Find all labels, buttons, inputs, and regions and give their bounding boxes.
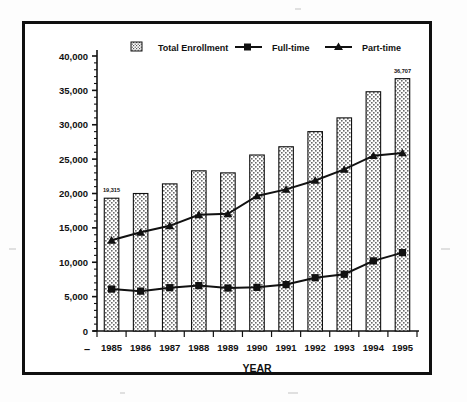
bar-1991 [279, 147, 294, 331]
y-tick-label-20000: 20,000 [59, 188, 88, 199]
y-tick-label-15000: 15,000 [59, 222, 88, 233]
marker-square-1992 [312, 274, 319, 281]
y-tick-label-35000: 35,000 [59, 85, 88, 96]
marker-square-1988 [195, 282, 202, 289]
x-tick-label-1988: 1988 [188, 342, 209, 353]
chart-legend: Total EnrollmentFull-timePart-time [131, 42, 401, 53]
x-tick-label-1992: 1992 [305, 342, 326, 353]
y-tick-label-30000: 30,000 [59, 119, 88, 130]
x-tick-label-1990: 1990 [246, 342, 267, 353]
y-tick-label-10000: 10,000 [59, 257, 88, 268]
marker-square-1989 [224, 284, 231, 291]
x-tick-label-1985: 1985 [101, 342, 123, 353]
bar-1994 [366, 92, 381, 331]
x-axis-title: YEAR [242, 362, 272, 372]
marker-square-1993 [341, 271, 348, 278]
x-tick-label-1995: 1995 [392, 342, 414, 353]
bar-1985 [104, 198, 119, 331]
axis-dash-marker: – [84, 343, 90, 355]
bar-1989 [221, 173, 236, 331]
figure-frame: Total EnrollmentFull-timePart-time05,000… [22, 21, 432, 375]
marker-square-1986 [137, 288, 144, 295]
y-tick-label-5000: 5,000 [64, 291, 88, 302]
legend-label-total-enrollment: Total Enrollment [158, 43, 228, 53]
y-tick-label-25000: 25,000 [59, 154, 88, 165]
marker-square-1990 [253, 284, 260, 291]
x-tick-label-1987: 1987 [159, 342, 180, 353]
x-tick-label-1991: 1991 [276, 342, 298, 353]
x-tick-label-1986: 1986 [130, 342, 151, 353]
chart-plot-area: Total EnrollmentFull-timePart-time05,000… [25, 24, 429, 372]
data-label-1995: 36,707 [394, 68, 411, 74]
bar-1993 [337, 118, 352, 331]
x-tick-label-1993: 1993 [334, 342, 355, 353]
x-tick-label-1989: 1989 [217, 342, 238, 353]
y-tick-label-40000: 40,000 [59, 51, 88, 62]
legend-swatch-total-enrollment [131, 42, 142, 51]
data-label-1985: 19,315 [103, 187, 120, 193]
marker-square-1995 [399, 249, 406, 256]
bar-1995 [395, 79, 410, 331]
bar-series-total-enrollment [104, 79, 409, 331]
legend-marker-square-full-time [244, 44, 251, 51]
combo-bar-line-chart: Total EnrollmentFull-timePart-time05,000… [25, 24, 429, 372]
bar-1992 [308, 132, 323, 331]
legend-label-full-time: Full-time [272, 43, 310, 53]
marker-square-1991 [282, 281, 289, 288]
bar-1988 [192, 171, 207, 331]
x-tick-label-1994: 1994 [363, 342, 385, 353]
bar-1990 [250, 155, 265, 331]
marker-square-1994 [370, 257, 377, 264]
bar-1986 [133, 194, 148, 332]
bar-1987 [162, 184, 177, 331]
marker-square-1985 [108, 285, 115, 292]
y-tick-label-0: 0 [83, 326, 88, 337]
x-axis-labels: 1985198619871988198919901991199219931994… [84, 342, 414, 372]
legend-label-part-time: Part-time [362, 43, 401, 53]
marker-square-1987 [166, 284, 173, 291]
